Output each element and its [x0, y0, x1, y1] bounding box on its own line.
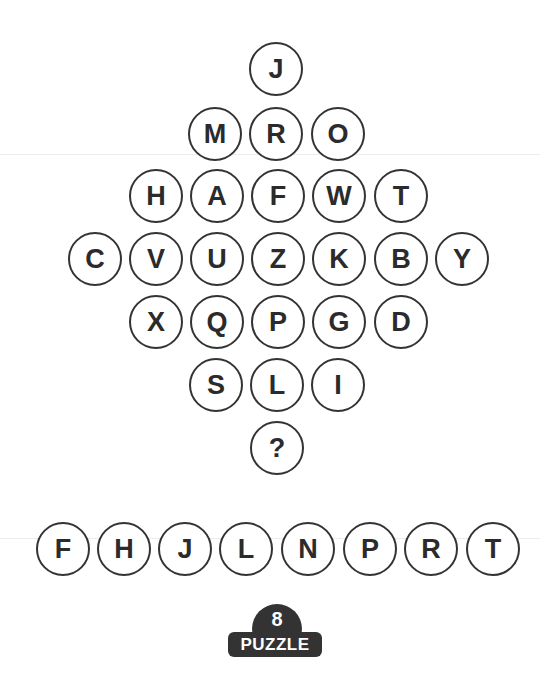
letter-circle: Q	[190, 295, 244, 349]
answer-option[interactable]: P	[343, 522, 397, 576]
letter-circle: L	[250, 358, 304, 412]
answer-option[interactable]: H	[97, 522, 151, 576]
letter: B	[391, 246, 411, 273]
letter: O	[327, 121, 348, 148]
letter-circle: U	[190, 232, 244, 286]
letter-circle: X	[129, 295, 183, 349]
letter: Y	[453, 246, 471, 273]
letter-circle: M	[188, 107, 242, 161]
letter: G	[328, 309, 349, 336]
letter-circle: B	[374, 232, 428, 286]
letter-circle: R	[249, 107, 303, 161]
answer-option[interactable]: J	[158, 522, 212, 576]
letter: C	[85, 246, 105, 273]
letter: J	[268, 56, 283, 83]
letter-circle: C	[68, 232, 122, 286]
letter: S	[207, 372, 225, 399]
letter: L	[269, 372, 286, 399]
letter: I	[334, 372, 342, 399]
letter-circle: O	[311, 107, 365, 161]
letter-circle: T	[374, 169, 428, 223]
letter-circle: D	[374, 295, 428, 349]
letter: V	[147, 246, 165, 273]
option-letter: F	[55, 536, 72, 563]
letter: Z	[270, 246, 287, 273]
letter: U	[207, 246, 227, 273]
letter-circle: K	[312, 232, 366, 286]
letter: X	[147, 309, 165, 336]
letter: W	[326, 183, 351, 210]
answer-option[interactable]: N	[281, 522, 335, 576]
option-letter: R	[421, 536, 441, 563]
letter: P	[269, 309, 287, 336]
missing-letter-circle: ?	[250, 421, 304, 475]
letter-circle: V	[129, 232, 183, 286]
letter: A	[207, 183, 227, 210]
answer-option[interactable]: R	[404, 522, 458, 576]
letter-circle: W	[312, 169, 366, 223]
letter: T	[393, 183, 410, 210]
letter: R	[266, 121, 286, 148]
letter-circle: Y	[435, 232, 489, 286]
letter-circle: H	[129, 169, 183, 223]
option-letter: J	[177, 536, 192, 563]
letter: F	[270, 183, 287, 210]
letter: M	[204, 121, 227, 148]
letter: K	[329, 246, 349, 273]
puzzle-number: 8	[252, 609, 302, 629]
question-mark: ?	[269, 435, 286, 462]
letter-circle: A	[190, 169, 244, 223]
option-letter: H	[114, 536, 134, 563]
letter-circle: J	[249, 42, 303, 96]
option-letter: L	[238, 536, 255, 563]
option-letter: T	[485, 536, 502, 563]
option-letter: P	[361, 536, 379, 563]
letter-circle: S	[189, 358, 243, 412]
option-letter: N	[298, 536, 318, 563]
puzzle-number-badge: 8 PUZZLE	[228, 604, 322, 658]
answer-option[interactable]: F	[36, 522, 90, 576]
puzzle-label: PUZZLE	[228, 636, 322, 654]
answer-option[interactable]: L	[219, 522, 273, 576]
letter: D	[391, 309, 411, 336]
letter-circle: F	[251, 169, 305, 223]
letter-circle: Z	[251, 232, 305, 286]
letter-circle: I	[311, 358, 365, 412]
letter: Q	[206, 309, 227, 336]
letter: H	[146, 183, 166, 210]
letter-circle: G	[312, 295, 366, 349]
letter-circle: P	[251, 295, 305, 349]
answer-option[interactable]: T	[466, 522, 520, 576]
